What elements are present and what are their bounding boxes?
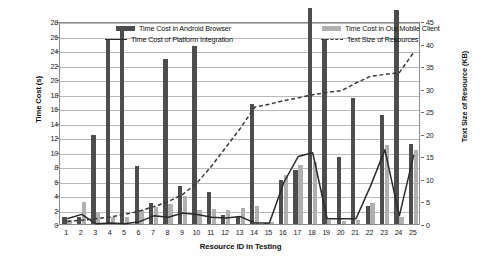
secondary-y-tick-label: 35 — [426, 63, 448, 72]
x-tick-label: 25 — [405, 228, 421, 237]
secondary-y-tick-mark — [421, 157, 424, 158]
secondary-y-tick-mark — [421, 22, 424, 23]
solid-line-series — [67, 150, 414, 224]
y-tick-label: 18 — [36, 91, 58, 100]
legend-label: Time Cost in Our Mobile Client — [345, 24, 440, 33]
legend-item: Time Cost in Our Mobile Client — [322, 24, 440, 33]
y-tick-label: 16 — [36, 105, 58, 114]
x-axis-title: Resource ID in Testing — [0, 242, 481, 251]
secondary-y-tick-label: 40 — [426, 41, 448, 50]
legend-item: Time Cost of Platform Integration — [105, 35, 233, 44]
secondary-y-tick-mark — [421, 135, 424, 136]
legend-swatch-icon — [105, 39, 127, 40]
legend-label: Time Cost of Platform Integration — [131, 35, 233, 44]
y-tick-label: 22 — [36, 62, 58, 71]
secondary-y-tick-label: 10 — [426, 176, 448, 185]
y-tick-label: 10 — [36, 149, 58, 158]
secondary-y-tick-label: 0 — [426, 221, 448, 230]
secondary-y-tick-label: 15 — [426, 153, 448, 162]
secondary-y-axis-title: Text Size of Resource (KB) — [460, 37, 469, 157]
y-tick-label: 26 — [36, 33, 58, 42]
legend-label: Text Size of Resources — [347, 35, 418, 44]
chart-container: Time Cost (s) Text Size of Resource (KB)… — [0, 0, 481, 275]
y-tick-label: 8 — [36, 163, 58, 172]
secondary-y-tick-mark — [421, 67, 424, 68]
y-tick-label: 4 — [36, 192, 58, 201]
line-series-group — [60, 23, 421, 226]
y-tick-label: 6 — [36, 178, 58, 187]
y-tick-label: 12 — [36, 134, 58, 143]
secondary-y-tick-mark — [421, 112, 424, 113]
y-tick-label: 0 — [36, 221, 58, 230]
secondary-y-tick-mark — [421, 90, 424, 91]
dashed-line-series — [67, 52, 414, 221]
legend-item: Text Size of Resources — [321, 35, 418, 44]
legend-swatch-icon — [321, 39, 343, 40]
y-tick-label: 24 — [36, 47, 58, 56]
legend-item: Time Cost in Android Browser — [116, 24, 231, 33]
secondary-y-tick-label: 25 — [426, 108, 448, 117]
y-tick-label: 20 — [36, 76, 58, 85]
chart-legend: Time Cost in Android BrowserTime Cost in… — [69, 24, 414, 48]
secondary-y-tick-mark — [421, 180, 424, 181]
secondary-y-tick-mark — [421, 202, 424, 203]
secondary-y-tick-label: 30 — [426, 86, 448, 95]
legend-swatch-icon — [116, 26, 135, 31]
plot-area — [59, 22, 420, 225]
y-tick-label: 14 — [36, 120, 58, 129]
y-tick-label: 2 — [36, 207, 58, 216]
legend-swatch-icon — [322, 26, 341, 31]
secondary-y-tick-mark — [421, 225, 424, 226]
legend-label: Time Cost in Android Browser — [139, 24, 231, 33]
secondary-y-tick-label: 20 — [426, 131, 448, 140]
y-tick-mark — [56, 225, 59, 226]
y-tick-label: 28 — [36, 18, 58, 27]
secondary-y-tick-label: 5 — [426, 198, 448, 207]
secondary-y-tick-mark — [421, 45, 424, 46]
